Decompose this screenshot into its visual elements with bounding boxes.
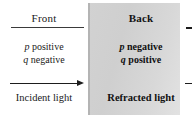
arrow-shaft: [185, 83, 192, 84]
back-q-value: positive: [126, 54, 161, 65]
back-q-sign-line: q positive: [90, 54, 192, 67]
front-q-value: negative: [28, 54, 64, 65]
front-q-sign-line: q negative: [0, 54, 88, 67]
back-region: Back p negative q positive Refracted lig…: [90, 0, 192, 122]
back-p-sign-line: p negative: [90, 41, 192, 54]
front-header-rule: [11, 27, 84, 28]
back-header-rule: [186, 27, 192, 29]
back-p-value: negative: [124, 41, 162, 52]
arrow-head: [77, 80, 84, 86]
front-region: Front p positive q negative Incident lig…: [0, 0, 88, 122]
back-header-label: Back: [90, 12, 192, 24]
refracted-light-caption: Refracted light: [90, 92, 192, 104]
front-p-sign-line: p positive: [0, 41, 88, 54]
incident-light-arrow-icon: [10, 80, 84, 87]
front-sign-conventions: p positive q negative: [0, 41, 88, 66]
back-sign-conventions: p negative q positive: [90, 41, 192, 66]
refracted-light-arrow-icon: [185, 80, 192, 87]
incident-light-caption: Incident light: [0, 92, 88, 104]
optics-sign-convention-figure: Front p positive q negative Incident lig…: [0, 0, 192, 122]
front-p-value: positive: [29, 41, 63, 52]
arrow-shaft: [10, 83, 78, 84]
front-header-label: Front: [0, 12, 88, 24]
